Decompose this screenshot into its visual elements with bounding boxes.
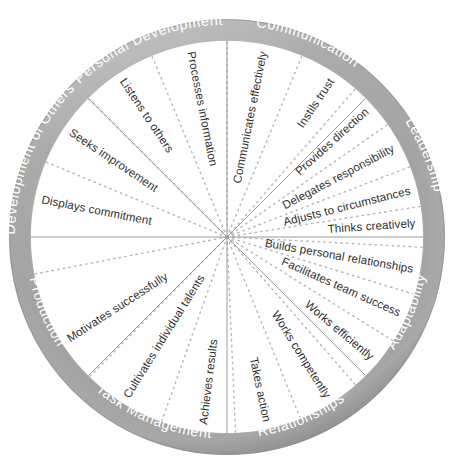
competency-wheel-diagram: CommunicationLeadershipAdaptabilityRelat…	[0, 0, 454, 474]
sector-dividers	[31, 41, 423, 433]
wheel-svg: CommunicationLeadershipAdaptabilityRelat…	[0, 0, 454, 474]
